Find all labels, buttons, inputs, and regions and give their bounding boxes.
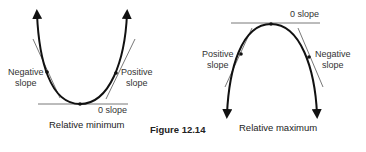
label-positive-slope-left: Positive slope [121, 67, 153, 89]
point-negative-slope [307, 55, 311, 59]
label-negative-slope-left: Negative slope [8, 67, 44, 89]
label-line-2: slope [315, 60, 351, 71]
label-line-2: slope [202, 60, 234, 71]
label-zero-slope-min: 0 slope [98, 105, 127, 116]
caption-relative-minimum: Relative minimum [49, 119, 125, 130]
label-line-1: Positive [121, 67, 153, 78]
label-line-1: Negative [8, 67, 44, 78]
point-minimum [78, 102, 82, 106]
label-negative-slope-right: Negative slope [315, 49, 351, 71]
upward-parabola [37, 14, 127, 104]
label-line-1: Positive [202, 49, 234, 60]
point-maximum [269, 22, 273, 26]
label-positive-slope-right: Positive slope [202, 49, 234, 71]
point-positive-slope [114, 71, 118, 75]
downward-parabola [227, 24, 317, 114]
relative-minimum-diagram [33, 14, 135, 106]
relative-maximum-diagram [225, 22, 323, 114]
point-negative-slope [45, 70, 49, 74]
point-positive-slope [239, 52, 243, 56]
figure-caption: Figure 12.14 [150, 124, 205, 135]
label-line-1: Negative [315, 49, 351, 60]
label-line-2: slope [121, 78, 153, 89]
caption-relative-maximum: Relative maximum [239, 122, 317, 133]
label-zero-slope-max: 0 slope [290, 9, 319, 20]
label-line-2: slope [8, 78, 44, 89]
